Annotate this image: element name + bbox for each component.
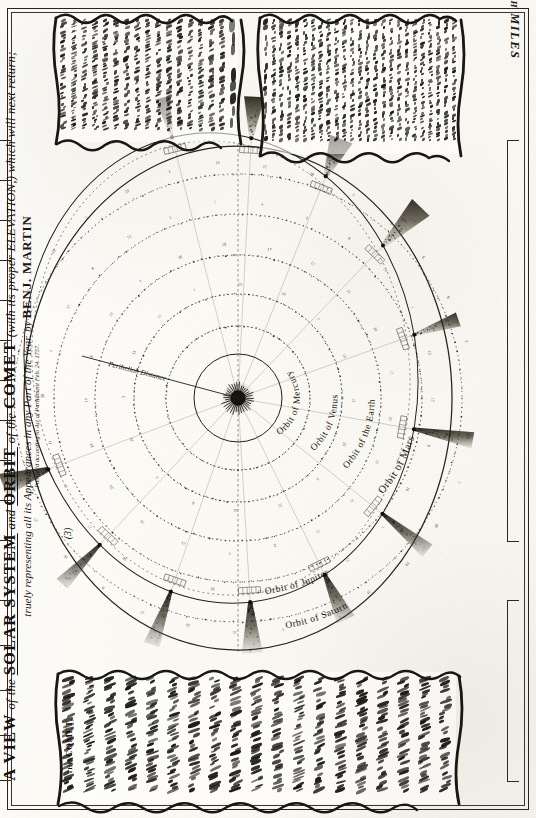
svg-text:17: 17	[84, 398, 89, 402]
title-view: A VIEW	[0, 713, 19, 780]
handwriting-line	[376, 672, 389, 804]
svg-text:29: 29	[342, 353, 348, 359]
title-the-1: the	[4, 679, 18, 695]
scale-ruler-upper	[507, 140, 519, 542]
svg-text:10: 10	[63, 483, 69, 489]
scale-tick	[0, 690, 11, 691]
handwriting-line	[219, 14, 226, 142]
svg-text:29: 29	[238, 282, 242, 287]
svg-text:25: 25	[341, 441, 347, 447]
handwriting-line	[418, 672, 431, 804]
handwriting-line	[166, 14, 173, 142]
scale-tick	[0, 780, 11, 781]
comet-8	[238, 398, 355, 624]
svg-text:21: 21	[257, 589, 262, 594]
comet-5	[238, 313, 461, 398]
title-parenthetical: (with its proper ELEVATION,) which will …	[4, 51, 18, 337]
svg-text:29: 29	[124, 188, 130, 194]
scale-ruler-lower	[507, 600, 519, 782]
svg-text:26: 26	[309, 171, 315, 177]
orbit-label-jupiter: Orbit of Jupiter	[264, 567, 330, 596]
handwriting-line	[271, 14, 276, 154]
handwriting-line	[188, 672, 201, 804]
handwriting-line	[155, 14, 162, 142]
svg-text:25: 25	[277, 503, 283, 509]
handwriting-line	[420, 14, 425, 154]
handwriting-line	[176, 14, 183, 142]
handwriting-line	[303, 14, 308, 154]
svg-text:12: 12	[310, 260, 316, 266]
svg-text:2: 2	[305, 215, 309, 220]
svg-text:4: 4	[261, 202, 265, 207]
handwriting-line	[326, 14, 331, 154]
handwriting-line	[250, 672, 263, 804]
comet-10	[144, 398, 238, 647]
scale-tick	[0, 735, 11, 736]
planet-orbits	[14, 174, 462, 622]
svg-text:11: 11	[47, 440, 53, 445]
scale-tick	[0, 540, 11, 541]
svg-text:7: 7	[456, 480, 461, 484]
svg-text:18: 18	[177, 254, 183, 260]
title-line-2: truely representing all its Appearances …	[20, 23, 33, 809]
scale-tick	[0, 500, 11, 501]
scale-tick	[0, 600, 11, 601]
svg-text:13: 13	[126, 233, 132, 239]
orbit-label-saturn: Orbit of Saturn	[284, 600, 349, 630]
orbit-label-earth: Orbit of the Earth	[341, 399, 377, 471]
svg-text:10: 10	[366, 589, 372, 595]
cartouche-top-left	[58, 14, 238, 142]
title-of-1: of	[4, 699, 18, 709]
svg-text:10: 10	[211, 587, 216, 592]
svg-text:2: 2	[274, 543, 277, 548]
outer-field-circle	[24, 146, 452, 650]
handwriting-line	[102, 14, 109, 142]
svg-text:4: 4	[48, 349, 54, 353]
comet-7	[238, 398, 432, 557]
svg-text:5: 5	[229, 551, 231, 556]
svg-text:15: 15	[139, 519, 145, 526]
comet-12	[0, 398, 238, 496]
comet-2	[238, 96, 265, 398]
handwriting-line	[389, 14, 394, 154]
svg-text:19: 19	[404, 561, 411, 567]
title-author: BENJ. MARTIN	[19, 215, 34, 318]
handwriting-line	[60, 14, 67, 142]
svg-text:21: 21	[346, 288, 352, 294]
svg-text:19: 19	[215, 160, 220, 165]
svg-text:20: 20	[372, 326, 378, 332]
svg-text:30: 30	[63, 554, 70, 560]
orbit-label-mars: Orbit of Mars	[376, 434, 417, 495]
perihelion-distance-line: Perihelion Distance	[82, 356, 238, 398]
svg-text:13: 13	[389, 370, 395, 375]
handwriting-line	[134, 14, 141, 142]
handwriting-line	[428, 14, 433, 154]
svg-text:30: 30	[40, 394, 45, 398]
handwriting-line	[439, 672, 452, 804]
svg-text:17: 17	[267, 246, 272, 252]
svg-text:8: 8	[90, 266, 95, 271]
svg-text:13: 13	[351, 398, 356, 402]
handwriting-line	[334, 672, 347, 804]
handwriting-line	[92, 14, 99, 142]
handwriting-line	[381, 14, 386, 154]
svg-text:23: 23	[108, 311, 114, 317]
svg-text:3: 3	[464, 340, 469, 343]
orbit-label-venus: Orbit of Venus	[308, 394, 339, 453]
svg-text:7: 7	[316, 317, 321, 322]
svg-text:20: 20	[434, 523, 440, 529]
title-imprint: Publish'd according to Act of Parliament…	[34, 23, 40, 809]
handwriting-line	[405, 14, 410, 154]
handwriting-line	[229, 14, 236, 142]
svg-text:8: 8	[446, 295, 451, 299]
svg-text:24: 24	[233, 508, 238, 513]
scale-tick	[0, 260, 11, 261]
handwriting-line	[81, 14, 88, 142]
handwriting-line	[397, 672, 410, 804]
svg-text:6: 6	[154, 475, 159, 480]
orbit-path-venus	[166, 326, 310, 470]
orbit-numerals: 1325625246629313191291072919272515252415…	[25, 160, 472, 635]
comet-3	[238, 135, 353, 398]
title-solar-system: SOLAR SYSTEM	[0, 533, 19, 675]
svg-text:27: 27	[374, 459, 380, 465]
